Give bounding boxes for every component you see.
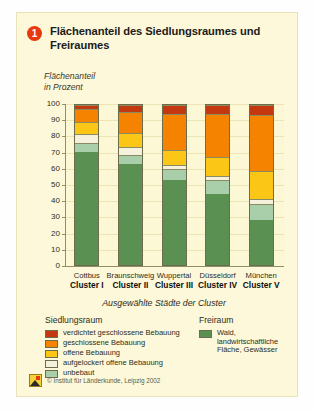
legend-label: verdichtet geschlossene Bebauung <box>63 329 180 338</box>
y-axis-title-line1: Flächenanteil <box>44 71 95 82</box>
bar-cottbus <box>74 104 99 266</box>
bar-münchen <box>249 104 274 266</box>
bar-segment <box>163 150 186 165</box>
legend-item: Wald, landwirtschaftliche Fläche, Gewäss… <box>199 329 291 355</box>
y-axis-tick-label: 10 <box>41 245 60 254</box>
bar-segment <box>206 114 229 157</box>
bar-segment <box>250 171 273 200</box>
chart-legend: Siedlungsraum verdichtet geschlossene Be… <box>45 315 291 379</box>
legend-swatch <box>45 340 58 348</box>
legend-label: Wald, landwirtschaftliche Fläche, Gewäss… <box>217 329 291 355</box>
bar-segment <box>250 220 273 265</box>
bar-braunschweig <box>118 104 143 266</box>
bar-segment <box>75 152 98 265</box>
bar-segment <box>75 109 98 122</box>
figure-number-badge: 1 <box>27 26 42 41</box>
legend-swatch <box>45 360 58 368</box>
legend-item: verdichtet geschlossene Bebauung <box>45 329 187 338</box>
legend-label: geschlossene Bebauung <box>63 339 145 348</box>
y-axis-tick-label: 20 <box>41 229 60 238</box>
bar-segment <box>119 112 142 133</box>
legend-item: aufgelockert offene Bebauung <box>45 359 187 368</box>
legend-heading-right: Freiraum <box>199 315 291 325</box>
y-axis-title-line2: in Prozent <box>44 82 95 93</box>
y-axis-tick-label: 90 <box>41 115 60 124</box>
x-axis-group: MünchenCluster V <box>234 271 288 290</box>
bar-segment <box>163 105 186 114</box>
page-title: Flächenanteil des Siedlungsraumes und Fr… <box>50 25 289 52</box>
card-header: 1 Flächenanteil des Siedlungsraumes und … <box>27 25 289 52</box>
legend-items-left: verdichtet geschlossene Bebauunggeschlos… <box>45 329 187 378</box>
y-axis-tick-label: 50 <box>41 180 60 189</box>
legend-swatch <box>45 330 58 338</box>
y-axis-tick-label: 80 <box>41 131 60 140</box>
bar-segment <box>75 134 98 143</box>
legend-heading-left: Siedlungsraum <box>45 315 187 325</box>
x-axis-cluster-label: Cluster V <box>234 280 288 290</box>
bar-segment <box>119 105 142 112</box>
y-axis-tick-label: 60 <box>41 164 60 173</box>
bar-wuppertal <box>162 104 187 266</box>
y-axis-title: Flächenanteil in Prozent <box>44 71 95 92</box>
bar-segment <box>75 122 98 134</box>
legend-label: aufgelockert offene Bebauung <box>63 359 163 368</box>
legend-item: geschlossene Bebauung <box>45 339 187 348</box>
y-axis-tick-label: 70 <box>41 148 60 157</box>
bar-segment <box>206 194 229 265</box>
x-axis-title: Ausgewählte Städte der Cluster <box>44 298 284 308</box>
bar-segment <box>250 105 273 115</box>
copyright-text: © Institut für Länderkunde, Leipzig 2002 <box>47 377 160 384</box>
bar-segment <box>163 180 186 265</box>
chart-bars <box>65 104 283 266</box>
x-axis-labels: CottbusCluster IBraunschweigCluster IIWu… <box>65 271 283 297</box>
y-axis-tick-label: 40 <box>41 196 60 205</box>
bar-segment <box>119 133 142 146</box>
bar-segment <box>206 105 229 114</box>
legend-group-siedlungsraum: Siedlungsraum verdichtet geschlossene Be… <box>45 315 187 379</box>
bar-segment <box>163 114 186 151</box>
legend-group-freiraum: Freiraum Wald, landwirtschaftliche Fläch… <box>199 315 291 379</box>
bar-segment <box>75 143 98 152</box>
card-footer: © Institut für Länderkunde, Leipzig 2002 <box>29 374 160 387</box>
bar-segment <box>119 147 142 156</box>
bar-segment <box>119 155 142 164</box>
screenshot-page: 1 Flächenanteil des Siedlungsraumes und … <box>0 0 314 411</box>
chart-plot-area: 0102030405060708090100 CottbusCluster IB… <box>44 99 284 271</box>
chart-card: 1 Flächenanteil des Siedlungsraumes und … <box>16 12 298 397</box>
legend-label: offene Bebauung <box>63 349 120 358</box>
bar-segment <box>119 164 142 265</box>
legend-swatch <box>45 350 58 358</box>
y-axis-tick-label: 30 <box>41 212 60 221</box>
bar-segment <box>250 204 273 221</box>
legend-swatch <box>199 330 212 338</box>
bar-düsseldorf <box>205 104 230 266</box>
y-axis-tick-label: 0 <box>41 261 60 270</box>
bar-segment <box>206 157 229 177</box>
x-axis-city-label: München <box>234 271 288 280</box>
bar-segment <box>250 115 273 170</box>
y-axis-tick-label: 100 <box>41 99 60 108</box>
legend-items-right: Wald, landwirtschaftliche Fläche, Gewäss… <box>199 329 291 355</box>
bar-segment <box>206 180 229 193</box>
bar-segment <box>163 169 186 179</box>
institut-logo-icon <box>29 374 42 387</box>
legend-item: offene Bebauung <box>45 349 187 358</box>
y-axis-tick <box>62 266 66 267</box>
